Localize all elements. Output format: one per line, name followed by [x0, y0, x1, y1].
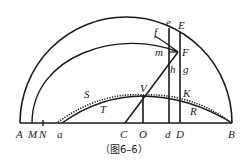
label-A: A: [16, 129, 23, 140]
label-R: R: [190, 106, 197, 117]
label-B: B: [228, 129, 235, 140]
label-e: e: [166, 17, 171, 28]
label-O: O: [139, 129, 147, 140]
geometry-diagram: [0, 0, 247, 167]
label-M: M: [28, 129, 37, 140]
label-d: d: [165, 129, 171, 140]
label-h: h: [170, 64, 176, 75]
label-D: D: [176, 129, 184, 140]
label-S: S: [84, 89, 90, 100]
label-f: f: [154, 27, 157, 38]
label-C: C: [120, 129, 127, 140]
label-m: m: [155, 47, 163, 58]
label-K: K: [183, 88, 190, 99]
label-N: N: [39, 129, 46, 140]
label-V: V: [140, 83, 147, 94]
label-E: E: [178, 20, 185, 31]
solid-arc-T: [62, 96, 232, 123]
label-g: g: [183, 64, 189, 75]
figure-caption: （图6–6）: [100, 145, 148, 155]
label-T: T: [100, 104, 106, 115]
label-F: F: [182, 47, 189, 58]
label-a: a: [57, 129, 63, 140]
